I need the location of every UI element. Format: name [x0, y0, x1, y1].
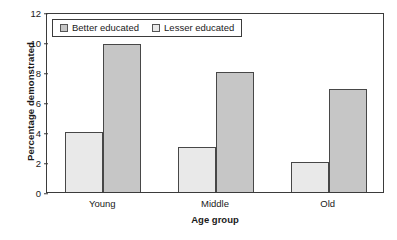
bar-old-better [329, 89, 367, 193]
y-tick-label: 2 [36, 159, 44, 169]
y-tick-8: 8 [36, 69, 47, 79]
y-tick-0: 0 [36, 189, 47, 199]
y-tick-10: 10 [30, 39, 47, 49]
legend-item-better: Better educated [60, 23, 139, 33]
bar-young-lesser [65, 132, 103, 192]
bar-old-lesser [291, 162, 329, 192]
y-tick-label: 0 [36, 189, 44, 199]
y-tick-6: 6 [36, 99, 47, 109]
x-axis-title: Age group [46, 214, 384, 225]
y-tick-12: 12 [30, 9, 47, 19]
bar-middle-better [216, 72, 254, 192]
legend-label: Better educated [72, 23, 139, 33]
bar-chart: Percentage demonstrated 024681012 YoungM… [0, 0, 397, 240]
x-tick-label-young: Young [89, 198, 116, 209]
y-tick-mark [44, 103, 48, 104]
legend-label: Lesser educated [164, 23, 234, 33]
y-tick-label: 10 [30, 39, 44, 49]
bar-middle-lesser [178, 147, 216, 192]
bar-young-better [103, 44, 141, 193]
y-tick-mark [44, 133, 48, 134]
y-tick-mark [44, 193, 48, 194]
y-tick-2: 2 [36, 159, 47, 169]
y-tick-mark [44, 163, 48, 164]
legend-swatch-icon [60, 24, 68, 32]
bars-layer [47, 14, 383, 192]
y-tick-label: 4 [36, 129, 44, 139]
y-tick-mark [44, 43, 48, 44]
chart-legend: Better educatedLesser educated [52, 19, 242, 37]
x-tick-label-middle: Middle [201, 198, 229, 209]
y-tick-mark [44, 73, 48, 74]
plot-area: 024681012 [46, 13, 384, 193]
y-tick-label: 8 [36, 69, 44, 79]
y-tick-mark [44, 13, 48, 14]
y-tick-label: 6 [36, 99, 44, 109]
legend-swatch-icon [152, 24, 160, 32]
x-tick-label-old: Old [320, 198, 335, 209]
legend-item-lesser: Lesser educated [152, 23, 234, 33]
y-tick-label: 12 [30, 9, 44, 19]
y-tick-4: 4 [36, 129, 47, 139]
